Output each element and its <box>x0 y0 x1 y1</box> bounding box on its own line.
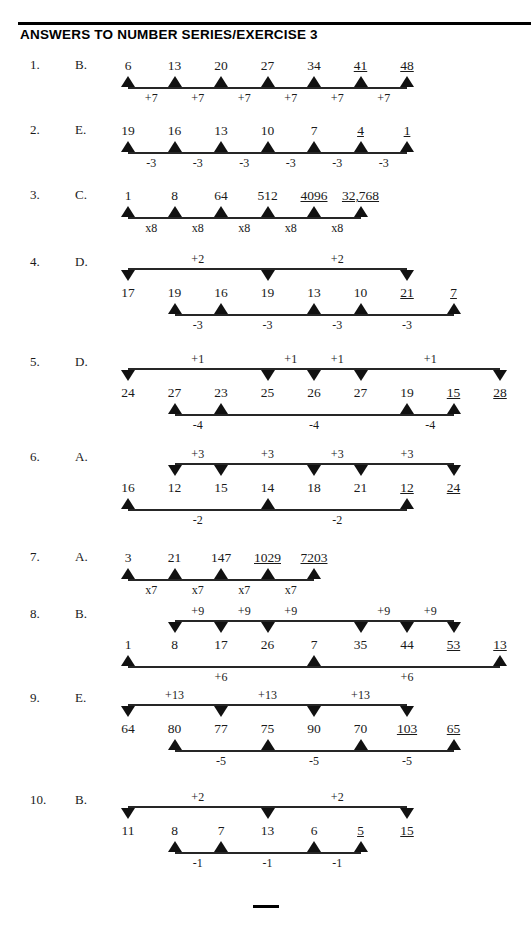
step-label: +9 <box>238 604 251 618</box>
series-term: 13 <box>214 122 228 140</box>
series-term: 11 <box>122 822 135 840</box>
answer-term: 4 <box>357 122 364 140</box>
bottom-connector-line <box>128 217 361 219</box>
step-label: x7 <box>285 583 297 597</box>
up-arrow-marker <box>447 303 461 314</box>
step-label: +13 <box>351 688 370 702</box>
step-label: +7 <box>191 91 204 105</box>
down-arrow-marker <box>121 270 135 281</box>
item-number: 2. <box>30 122 58 138</box>
up-arrow-marker <box>261 739 275 750</box>
down-arrow-marker <box>493 370 507 381</box>
down-arrow-marker <box>354 465 368 476</box>
up-arrow-marker <box>307 206 321 217</box>
step-label: +9 <box>424 604 437 618</box>
series-term: 18 <box>307 479 321 497</box>
answer-row: 6.A.+3+3+3+31612151418211224-2-2 <box>0 447 531 547</box>
step-label: +6 <box>401 670 414 684</box>
item-number: 6. <box>30 449 58 465</box>
up-arrow-marker <box>214 303 228 314</box>
series-term: 80 <box>168 720 182 738</box>
up-arrow-marker <box>261 568 275 579</box>
answer-letter: A. <box>75 549 103 565</box>
down-arrow-marker <box>121 370 135 381</box>
down-arrow-marker <box>168 465 182 476</box>
answer-term: 28 <box>493 384 507 402</box>
step-label: +9 <box>191 604 204 618</box>
step-label: +7 <box>145 91 158 105</box>
step-label: -3 <box>239 156 249 170</box>
series-term: 35 <box>354 636 368 654</box>
up-arrow-marker <box>261 498 275 509</box>
down-arrow-marker <box>121 706 135 717</box>
down-arrow-marker <box>168 622 182 633</box>
page-title: ANSWERS TO NUMBER SERIES/EXERCISE 3 <box>20 27 318 42</box>
answer-letter: E. <box>75 690 103 706</box>
item-number: 3. <box>30 187 58 203</box>
answer-letter: D. <box>75 354 103 370</box>
answer-term: 103 <box>397 720 417 738</box>
answer-term: 5 <box>357 822 364 840</box>
up-arrow-marker <box>307 655 321 666</box>
answer-letter: C. <box>75 187 103 203</box>
down-arrow-marker <box>400 270 414 281</box>
answer-key-page: ANSWERS TO NUMBER SERIES/EXERCISE 3 1.B.… <box>0 0 531 925</box>
series-term: 10 <box>354 284 368 302</box>
answer-term: 12 <box>400 479 414 497</box>
step-label: +1 <box>424 352 437 366</box>
down-arrow-marker <box>400 706 414 717</box>
step-label: -3 <box>146 156 156 170</box>
answer-letter: B. <box>75 792 103 808</box>
up-arrow-marker <box>168 141 182 152</box>
step-label: -5 <box>216 754 226 768</box>
step-label: +3 <box>261 447 274 461</box>
series-term: 34 <box>307 57 321 75</box>
step-label: +7 <box>377 91 390 105</box>
series-term: 13 <box>261 822 275 840</box>
series-term: 19 <box>168 284 182 302</box>
item-number: 7. <box>30 549 58 565</box>
step-label: -3 <box>332 156 342 170</box>
up-arrow-marker <box>168 303 182 314</box>
up-arrow-marker <box>168 206 182 217</box>
step-label: -1 <box>263 856 273 870</box>
step-label: -5 <box>309 754 319 768</box>
bottom-connector-line <box>128 666 500 668</box>
answer-term: 48 <box>400 57 414 75</box>
series-term: 147 <box>211 549 231 567</box>
answer-row: 10.B.+2+21187136515-1-1-1 <box>0 790 531 890</box>
top-connector-line <box>128 704 407 706</box>
answer-term: 1 <box>404 122 411 140</box>
series-term: 26 <box>261 636 275 654</box>
series-term: 12 <box>168 479 182 497</box>
series-term: 17 <box>214 636 228 654</box>
up-arrow-marker <box>307 841 321 852</box>
step-label: -3 <box>286 156 296 170</box>
down-arrow-marker <box>400 808 414 819</box>
series-term: 8 <box>171 187 178 205</box>
step-label: +6 <box>215 670 228 684</box>
step-label: x8 <box>238 221 250 235</box>
down-arrow-marker <box>447 465 461 476</box>
down-arrow-marker <box>121 808 135 819</box>
answer-letter: B. <box>75 606 103 622</box>
series-term: 26 <box>307 384 321 402</box>
series-term: 70 <box>354 720 368 738</box>
bottom-connector-line <box>175 314 454 316</box>
up-arrow-marker <box>307 303 321 314</box>
answer-term: 15 <box>447 384 461 402</box>
step-label: +1 <box>191 352 204 366</box>
answer-term: 32,768 <box>342 187 379 205</box>
up-arrow-marker <box>261 76 275 87</box>
bottom-connector-line <box>175 852 361 854</box>
series-term: 19 <box>121 122 135 140</box>
bottom-connector-line <box>128 152 407 154</box>
series-term: 3 <box>125 549 132 567</box>
series-term: 15 <box>214 479 228 497</box>
series-term: 16 <box>168 122 182 140</box>
step-label: x7 <box>145 583 157 597</box>
step-label: +7 <box>284 91 297 105</box>
step-label: x8 <box>285 221 297 235</box>
step-label: x7 <box>192 583 204 597</box>
answer-term: 7 <box>450 284 457 302</box>
